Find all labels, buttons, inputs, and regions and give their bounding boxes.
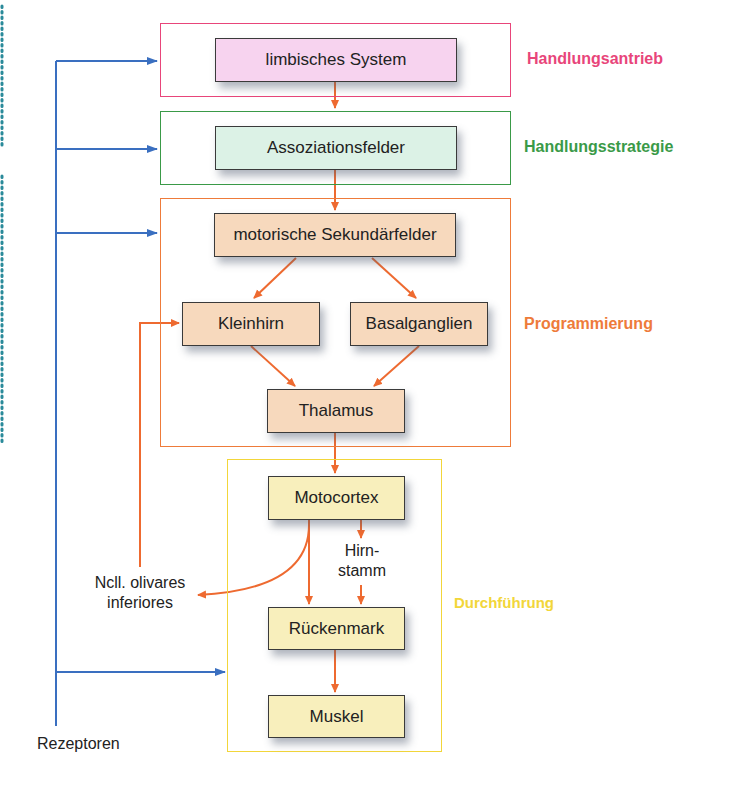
label-programmierung: Programmierung (524, 315, 653, 333)
label-hirnstamm-line2: stamm (333, 561, 391, 581)
box-motorische-sekundaerfelder: motorische Sekundärfelder (214, 213, 456, 257)
label-handlungsstrategie: Handlungsstrategie (524, 138, 673, 156)
box-kleinhirn: Kleinhirn (182, 302, 320, 346)
box-limbisches-system: limbisches System (215, 38, 457, 82)
label-hirnstamm: Hirn- stamm (333, 541, 391, 581)
box-assoziationsfelder: Assoziationsfelder (215, 126, 457, 170)
label-olivares-line1: Ncll. olivares (80, 573, 200, 593)
label-olivares-line2: inferiores (80, 593, 200, 613)
label-durchfuehrung: Durchführung (454, 594, 554, 611)
box-motocortex: Motocortex (268, 476, 405, 520)
box-rueckenmark: Rückenmark (268, 607, 405, 650)
box-muskel: Muskel (268, 695, 405, 738)
label-rezeptoren: Rezeptoren (37, 734, 120, 754)
box-basalganglien: Basalganglien (350, 302, 488, 346)
label-ncll-olivares: Ncll. olivares inferiores (80, 573, 200, 613)
label-hirnstamm-line1: Hirn- (333, 541, 391, 561)
box-thalamus: Thalamus (267, 389, 405, 433)
label-handlungsantrieb: Handlungsantrieb (527, 50, 663, 68)
